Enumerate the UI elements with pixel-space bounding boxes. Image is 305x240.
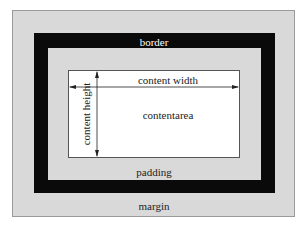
content-area-label: contentarea (143, 110, 194, 121)
padding-label: padding (136, 167, 171, 178)
content-height-label: content height (81, 83, 92, 146)
content-width-label: content width (138, 75, 198, 86)
border-label: border (140, 37, 169, 48)
margin-label: margin (139, 201, 170, 212)
content-height-arrow (95, 71, 99, 157)
